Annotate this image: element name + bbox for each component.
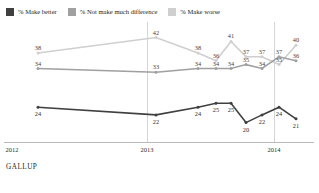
data-label: 36 bbox=[213, 52, 219, 59]
data-label: 35 bbox=[243, 56, 249, 63]
data-label: 41 bbox=[228, 32, 234, 39]
data-label: 42 bbox=[153, 29, 159, 36]
data-label: 34 bbox=[213, 60, 219, 67]
data-point bbox=[155, 36, 158, 39]
data-point bbox=[295, 117, 298, 120]
data-label: 34 bbox=[35, 60, 41, 67]
data-label: 20 bbox=[243, 126, 249, 133]
data-label: 21 bbox=[293, 122, 299, 129]
data-label: 34 bbox=[259, 60, 265, 67]
data-label: 37 bbox=[276, 48, 282, 55]
data-point bbox=[215, 102, 218, 105]
x-axis-line bbox=[4, 142, 314, 143]
data-point bbox=[215, 67, 218, 70]
series-container bbox=[30, 22, 319, 142]
data-label: 24 bbox=[35, 110, 41, 117]
plot-area: 3842383641373735403433343434353437362422… bbox=[30, 22, 319, 142]
data-point bbox=[155, 113, 158, 116]
data-label: 25 bbox=[228, 106, 234, 113]
data-point bbox=[230, 67, 233, 70]
data-label: 40 bbox=[293, 36, 299, 43]
legend-item-no-difference: % Not make much difference bbox=[68, 8, 158, 16]
legend-swatch-make-worse bbox=[168, 8, 176, 16]
x-axis-tick-label: 2013 bbox=[141, 146, 154, 154]
x-axis-tick-label: 2012 bbox=[6, 146, 19, 154]
legend-swatch-make-better bbox=[6, 8, 14, 16]
data-label: 38 bbox=[195, 44, 201, 51]
x-axis-tick-label: 2014 bbox=[268, 146, 281, 154]
data-point bbox=[245, 121, 248, 124]
data-label: 34 bbox=[195, 60, 201, 67]
data-point bbox=[295, 59, 298, 62]
data-point bbox=[278, 63, 281, 66]
data-point bbox=[197, 52, 200, 55]
data-label: 22 bbox=[153, 118, 159, 125]
data-label: 34 bbox=[228, 60, 234, 67]
data-point bbox=[197, 67, 200, 70]
series-line-make-better bbox=[38, 103, 296, 122]
data-label: 33 bbox=[153, 63, 159, 70]
data-point bbox=[230, 40, 233, 43]
data-point bbox=[278, 106, 281, 109]
data-label: 24 bbox=[195, 110, 201, 117]
data-point bbox=[155, 71, 158, 74]
legend-label-no-difference: % Not make much difference bbox=[80, 8, 158, 16]
data-point bbox=[230, 102, 233, 105]
data-label: 38 bbox=[35, 44, 41, 51]
data-label: 25 bbox=[213, 106, 219, 113]
legend-label-make-better: % Make better bbox=[18, 8, 57, 16]
data-point bbox=[295, 44, 298, 47]
data-label: 37 bbox=[243, 48, 249, 55]
gallup-line-chart: % Make better % Not make much difference… bbox=[0, 0, 319, 193]
data-label: 22 bbox=[259, 118, 265, 125]
data-point bbox=[197, 106, 200, 109]
data-point bbox=[245, 63, 248, 66]
data-point bbox=[261, 67, 264, 70]
data-point bbox=[37, 106, 40, 109]
source-attribution: GALLUP bbox=[6, 163, 37, 171]
legend-item-make-worse: % Make worse bbox=[168, 8, 220, 16]
chart-legend: % Make better % Not make much difference… bbox=[6, 5, 313, 18]
data-label: 37 bbox=[259, 48, 265, 55]
data-label: 36 bbox=[293, 52, 299, 59]
series-line-no-difference bbox=[38, 57, 296, 73]
legend-item-make-better: % Make better bbox=[6, 8, 57, 16]
data-point bbox=[261, 55, 264, 58]
legend-label-make-worse: % Make worse bbox=[180, 8, 220, 16]
data-point bbox=[37, 67, 40, 70]
data-label: 24 bbox=[276, 110, 282, 117]
data-label: 35 bbox=[276, 56, 282, 63]
data-point bbox=[37, 52, 40, 55]
data-point bbox=[261, 113, 264, 116]
legend-swatch-no-difference bbox=[68, 8, 76, 16]
series-line-make-worse bbox=[38, 38, 296, 65]
